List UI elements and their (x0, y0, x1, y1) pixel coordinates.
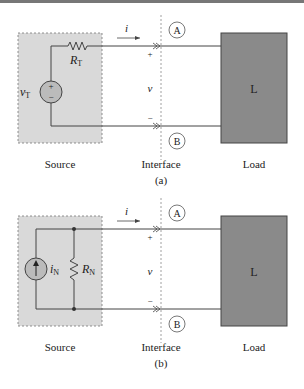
svg-text:(b): (b) (155, 357, 168, 370)
svg-text:v: v (148, 82, 153, 94)
svg-text:+: + (147, 49, 152, 59)
svg-text:Source: Source (45, 158, 76, 170)
svg-text:i: i (125, 205, 128, 217)
figure-a-thevenin: + − vT RT i + v − A B L Source Interface… (18, 15, 287, 187)
svg-text:(a): (a) (155, 174, 168, 187)
svg-text:i: i (125, 22, 128, 34)
svg-text:A: A (173, 208, 181, 219)
svg-text:−: − (147, 113, 152, 123)
svg-text:A: A (173, 25, 181, 36)
svg-text:L: L (250, 82, 257, 96)
svg-text:+: + (147, 232, 152, 242)
svg-text:Interface: Interface (141, 158, 180, 170)
svg-text:−: − (147, 296, 152, 306)
svg-text:L: L (250, 265, 257, 279)
figure-b-norton: iN RN i + v − A B L Source Interface Loa… (18, 198, 287, 370)
svg-text:v: v (148, 265, 153, 277)
svg-text:B: B (174, 319, 181, 330)
svg-text:+: + (48, 81, 53, 91)
svg-text:Load: Load (243, 341, 266, 353)
svg-text:B: B (174, 136, 181, 147)
svg-text:Load: Load (243, 158, 266, 170)
svg-text:Interface: Interface (141, 341, 180, 353)
svg-text:Source: Source (45, 341, 76, 353)
svg-text:−: − (48, 92, 53, 102)
